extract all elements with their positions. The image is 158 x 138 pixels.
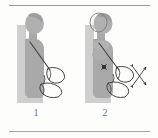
scapula-connector [44, 75, 45, 83]
panel-2-caption: 2 [96, 107, 114, 119]
figure-panel-1 [8, 9, 80, 105]
figure-container: 1 2 [0, 0, 158, 138]
torso-silhouette [25, 32, 44, 98]
panel-1-caption: 1 [27, 107, 45, 119]
panel-1-illustration [8, 9, 80, 105]
top-rule [9, 5, 150, 6]
bottom-rule [9, 131, 150, 132]
four-way-motion-arrows [133, 67, 146, 85]
scapula-connector [113, 74, 114, 82]
panel-2-illustration [76, 9, 148, 105]
head-silhouette [25, 13, 44, 34]
figure-panel-2 [76, 9, 148, 105]
